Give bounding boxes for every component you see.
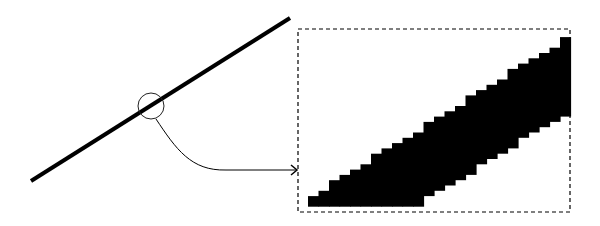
connector-arrow-curve bbox=[156, 119, 297, 170]
aliasing-diagram bbox=[0, 0, 600, 226]
pixel-staircase-band bbox=[308, 37, 571, 207]
thick-line bbox=[31, 18, 290, 181]
